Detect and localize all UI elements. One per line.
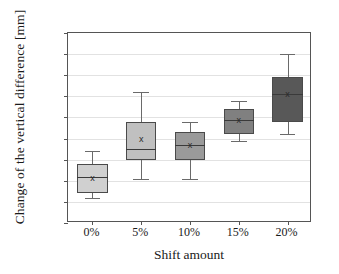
box-iqr: [272, 77, 302, 121]
x-tick-label-20pct: 20%: [257, 226, 317, 238]
box-plot-20pct: x: [68, 33, 312, 221]
y-tick-mark: [64, 223, 68, 224]
mean-marker: x: [285, 90, 290, 99]
x-axis-label: Shift amount: [67, 247, 311, 263]
plot-area: xxxxx: [67, 32, 311, 222]
whisker-cap-upper: [280, 54, 296, 55]
y-axis-label: Change of the vertical difference [mm]: [12, 7, 32, 227]
whisker-cap-lower: [280, 134, 296, 135]
boxplot-figure: Change of the vertical difference [mm] x…: [0, 0, 339, 274]
